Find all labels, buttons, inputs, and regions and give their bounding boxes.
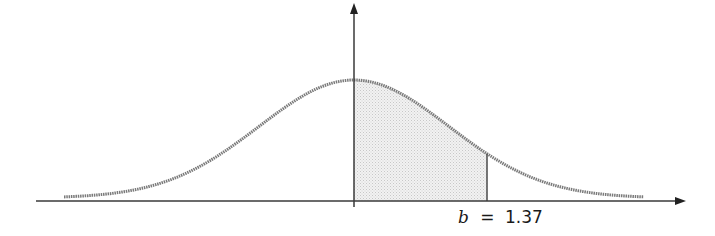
b-value-label: b = 1.37 xyxy=(458,207,543,227)
equals-sign: = xyxy=(480,207,494,227)
shaded-area-region xyxy=(354,80,487,201)
b-variable: b xyxy=(458,207,469,227)
x-axis-arrow-icon xyxy=(675,197,686,205)
b-value: 1.37 xyxy=(505,207,543,227)
normal-distribution-diagram: b = 1.37 xyxy=(0,0,715,236)
y-axis-arrow-icon xyxy=(350,3,358,14)
